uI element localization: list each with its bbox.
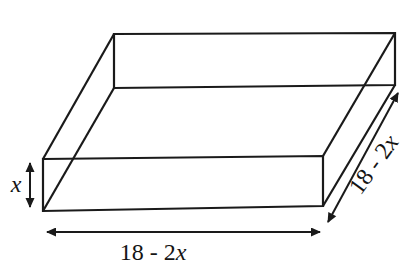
open-box-diagram: x 18 - 2x 18 - 2x — [0, 0, 408, 269]
base-width-label-number: 18 - 2 — [120, 239, 176, 265]
dimension-labels: x 18 - 2x 18 - 2x — [10, 129, 404, 265]
height-label: x — [10, 171, 22, 197]
base-width-label: 18 - 2x — [120, 239, 187, 265]
back-face-edges — [114, 33, 395, 88]
left-bottom-depth-edge — [43, 88, 114, 211]
base-width-label-variable: x — [175, 239, 187, 265]
prism-wireframe — [43, 33, 395, 211]
left-top-depth-edge — [43, 34, 114, 159]
geometry-figure: x 18 - 2x 18 - 2x — [0, 0, 408, 269]
front-face-edges — [43, 156, 323, 211]
